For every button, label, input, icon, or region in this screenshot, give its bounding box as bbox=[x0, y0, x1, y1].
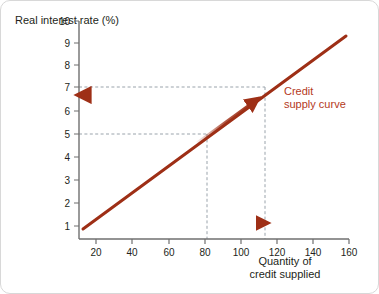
y-tick-label-1: 1 bbox=[64, 221, 70, 232]
chart-plot-area: 10 9 8 7 6 5 4 3 2 1 20 40 60 80 1 bbox=[1, 1, 379, 294]
y-tick-label-7: 7 bbox=[64, 82, 70, 93]
y-tick-label-10: 10 bbox=[59, 16, 71, 27]
y-tick-label-2: 2 bbox=[64, 198, 70, 209]
x-tick-label-100: 100 bbox=[233, 247, 250, 258]
movement-along-curve-arrow bbox=[197, 98, 259, 143]
x-tick-label-120: 120 bbox=[269, 247, 286, 258]
credit-supply-curve bbox=[83, 36, 346, 229]
figure-frame: Real interest rate (%) Quantity of credi… bbox=[0, 0, 379, 294]
y-tick-label-3: 3 bbox=[64, 175, 70, 186]
y-tick-label-6: 6 bbox=[64, 106, 70, 117]
x-axis-tick-labels: 20 40 60 80 100 120 140 160 bbox=[90, 247, 357, 258]
x-tick-label-40: 40 bbox=[126, 247, 138, 258]
y-tick-label-8: 8 bbox=[64, 60, 70, 71]
x-tick-label-80: 80 bbox=[199, 247, 211, 258]
y-axis-ticks bbox=[74, 21, 79, 226]
x-axis-ticks bbox=[96, 239, 349, 244]
y-tick-label-4: 4 bbox=[64, 152, 70, 163]
y-tick-label-5: 5 bbox=[64, 129, 70, 140]
x-tick-label-140: 140 bbox=[305, 247, 322, 258]
x-tick-label-160: 160 bbox=[341, 247, 358, 258]
y-tick-label-9: 9 bbox=[64, 38, 70, 49]
y-axis-tick-labels: 10 9 8 7 6 5 4 3 2 1 bbox=[59, 16, 71, 232]
x-tick-label-60: 60 bbox=[163, 247, 175, 258]
x-tick-label-20: 20 bbox=[90, 247, 102, 258]
